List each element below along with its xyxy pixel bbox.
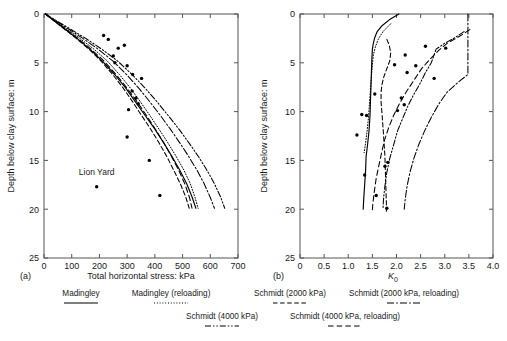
scatter-point <box>107 38 110 41</box>
series-line <box>383 32 464 210</box>
y-tick-label: 5 <box>290 58 295 68</box>
y-tick-label: 20 <box>285 205 295 215</box>
panel-b-plot-frame <box>300 14 493 258</box>
legend: MadingleyMadingley (reloading)Schmidt (2… <box>0 286 507 341</box>
scatter-point <box>113 61 116 64</box>
x-tick-label: 1.0 <box>342 261 355 271</box>
panel-a-annotation-lion-yard: Lion Yard <box>79 167 115 177</box>
scatter-point <box>400 96 403 99</box>
legend-label: Schmidt (2000 kPa) <box>254 289 326 298</box>
scatter-point <box>363 173 366 176</box>
x-tick-label: 0 <box>41 261 46 271</box>
panel-a-ticks <box>44 14 238 258</box>
scatter-point <box>403 53 406 56</box>
scatter-point <box>424 45 427 48</box>
legend-label: Madingley (reloading) <box>132 289 211 298</box>
scatter-point <box>403 103 406 106</box>
panel-b-svg: Depth below clay surface: m 00.51.01.52.… <box>253 0 507 290</box>
scatter-point <box>393 63 396 66</box>
scatter-point <box>95 185 98 188</box>
scatter-point <box>130 89 133 92</box>
y-tick-label: 5 <box>34 58 39 68</box>
x-tick-label: 600 <box>203 261 218 271</box>
scatter-point <box>385 207 388 210</box>
scatter-point <box>137 102 140 105</box>
panel-a-y-axis-title-text: Depth below clay surface: m <box>6 79 16 192</box>
panel-b-x-axis-title-subscript: 0 <box>394 276 398 283</box>
legend-row-1: MadingleyMadingley (reloading)Schmidt (2… <box>62 289 459 303</box>
scatter-point <box>123 44 126 47</box>
panel-a-svg: Depth below clay surface: m 010020030040… <box>0 0 254 290</box>
scatter-point <box>355 133 358 136</box>
scatter-point <box>148 159 151 162</box>
scatter-point <box>125 64 128 67</box>
series-line <box>45 14 214 208</box>
scatter-point <box>360 113 363 116</box>
x-tick-label: 100 <box>64 261 79 271</box>
y-tick-label: 15 <box>29 156 39 166</box>
y-tick-label: 10 <box>29 107 39 117</box>
scatter-point <box>383 165 386 168</box>
x-tick-label: 500 <box>175 261 190 271</box>
scatter-point <box>127 108 130 111</box>
scatter-point <box>117 46 120 49</box>
scatter-point <box>140 77 143 80</box>
y-tick-label: 20 <box>29 205 39 215</box>
y-tick-label: 10 <box>285 107 295 117</box>
scatter-point <box>131 73 134 76</box>
scatter-point <box>373 92 376 95</box>
panel-b-y-axis-title: Depth below clay surface: m <box>259 79 269 192</box>
panel-b-tick-labels: 00.51.01.52.02.53.03.54.00510152025 <box>285 9 499 271</box>
series-line <box>372 30 469 211</box>
legend-label: Schmidt (4000 kPa, reloading) <box>290 312 400 321</box>
panel-b-series-group <box>363 14 470 211</box>
x-tick-label: 700 <box>230 261 245 271</box>
y-tick-label: 25 <box>285 253 295 263</box>
panel-b-x-axis-title: K0 <box>388 271 398 283</box>
x-tick-label: 300 <box>120 261 135 271</box>
x-tick-label: 200 <box>92 261 107 271</box>
x-tick-label: 2.0 <box>390 261 403 271</box>
x-tick-label: 2.5 <box>414 261 427 271</box>
scatter-point <box>375 194 378 197</box>
series-line <box>45 14 224 208</box>
panel-b-y-axis-title-text: Depth below clay surface: m <box>259 79 269 192</box>
series-line <box>381 39 391 211</box>
scatter-point <box>414 64 417 67</box>
scatter-point <box>158 194 161 197</box>
scatter-point <box>134 96 137 99</box>
x-tick-label: 0 <box>297 261 302 271</box>
scatter-point <box>432 77 435 80</box>
y-tick-label: 15 <box>285 156 295 166</box>
x-tick-label: 3.5 <box>463 261 476 271</box>
x-tick-label: 4.0 <box>487 261 500 271</box>
scatter-point <box>444 46 447 49</box>
series-line <box>45 14 195 208</box>
scatter-point <box>405 71 408 74</box>
panel-a-tick-labels: 01002003004005006007000510152025 <box>29 9 246 271</box>
y-tick-label: 0 <box>290 9 295 19</box>
scatter-point <box>102 34 105 37</box>
legend-label: Schmidt (2000 kPa, reloading) <box>349 289 459 298</box>
legend-label: Madingley <box>62 289 100 298</box>
panel-a-tag: (a) <box>20 271 31 281</box>
panel-b-ticks <box>300 14 493 258</box>
scatter-point <box>386 161 389 164</box>
series-line <box>45 14 198 208</box>
legend-label: Schmidt (4000 kPa) <box>186 312 258 321</box>
panel-b-tag: (b) <box>273 271 284 281</box>
panel-a-x-axis-title: Total horizontal stress: kPa <box>87 271 195 281</box>
figure-container: Depth below clay surface: m 010020030040… <box>0 0 507 341</box>
panel-a-plot-frame <box>44 14 238 258</box>
scatter-point <box>365 114 368 117</box>
panel-a: Depth below clay surface: m 010020030040… <box>0 0 254 290</box>
y-tick-label: 0 <box>34 9 39 19</box>
y-tick-label: 25 <box>29 253 39 263</box>
x-tick-label: 1.5 <box>366 261 379 271</box>
panel-a-series-group <box>45 14 224 208</box>
panel-a-y-axis-title: Depth below clay surface: m <box>6 79 16 192</box>
scatter-point <box>112 54 115 57</box>
x-tick-label: 3.0 <box>438 261 451 271</box>
series-line <box>45 14 192 208</box>
legend-row-2: Schmidt (4000 kPa)Schmidt (4000 kPa, rel… <box>186 312 400 326</box>
